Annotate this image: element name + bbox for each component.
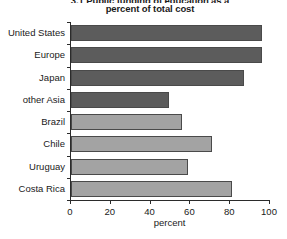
x-axis-tick-label: 100 — [254, 206, 284, 217]
x-axis-line — [70, 200, 269, 201]
category-label-chile: Chile — [0, 138, 65, 149]
y-axis-tick — [67, 22, 70, 23]
bar-costa-rica — [71, 181, 232, 197]
x-axis-tick — [110, 200, 111, 204]
category-label-brazil: Brazil — [0, 116, 65, 127]
category-label-japan: Japan — [0, 72, 65, 83]
category-label-europe: Europe — [0, 49, 65, 60]
y-axis-tick — [67, 111, 70, 112]
x-axis-tick-label: 20 — [95, 206, 125, 217]
y-axis-tick — [67, 178, 70, 179]
x-axis-tick-label: 0 — [55, 206, 85, 217]
category-label-uruguay: Uruguay — [0, 161, 65, 172]
y-axis-tick — [67, 89, 70, 90]
category-label-united-states: United States — [0, 27, 65, 38]
y-axis-tick — [67, 44, 70, 45]
bar-japan — [71, 70, 244, 86]
bar-row — [70, 133, 269, 155]
plot-area: 020406080100 — [70, 22, 269, 200]
category-label-costa-rica: Costa Rica — [0, 183, 65, 194]
x-axis-tick-label: 80 — [214, 206, 244, 217]
chart-title-line-2: percent of total cost — [40, 3, 260, 14]
chart-figure: 3.1 Public funding of education as a per… — [0, 0, 287, 239]
bar-uruguay — [71, 159, 188, 175]
bar-row — [70, 44, 269, 66]
bar-brazil — [71, 114, 182, 130]
y-axis-tick — [67, 133, 70, 134]
x-axis-tick — [189, 200, 190, 204]
y-axis-tick — [67, 156, 70, 157]
x-axis-tick-label: 40 — [135, 206, 165, 217]
x-axis-tick — [229, 200, 230, 204]
y-axis-tick — [67, 67, 70, 68]
bar-row — [70, 156, 269, 178]
x-axis-title: percent — [70, 217, 269, 228]
bar-chile — [71, 136, 212, 152]
chart-title: 3.1 Public funding of education as a per… — [40, 0, 260, 14]
bar-row — [70, 178, 269, 200]
bar-row — [70, 67, 269, 89]
x-axis-tick-label: 60 — [174, 206, 204, 217]
category-label-other-asia: other Asia — [0, 94, 65, 105]
bar-europe — [71, 47, 262, 63]
bar-row — [70, 111, 269, 133]
bar-other-asia — [71, 92, 169, 108]
bar-united-states — [71, 25, 262, 41]
x-axis-tick — [70, 200, 71, 204]
bar-row — [70, 89, 269, 111]
x-axis-tick — [150, 200, 151, 204]
x-axis-tick — [269, 200, 270, 204]
bar-row — [70, 22, 269, 44]
